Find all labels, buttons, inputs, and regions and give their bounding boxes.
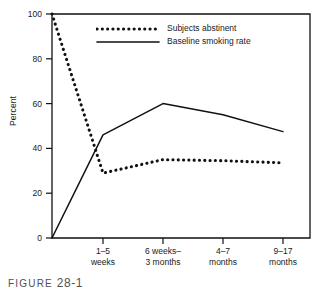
legend-swatch-solid-icon	[96, 37, 160, 47]
figure-caption-number: 28-1	[57, 276, 83, 287]
legend-item-subjects-abstinent: Subjects abstinent	[96, 22, 251, 35]
x-tick-label-4: 9–17 months	[248, 246, 318, 267]
y-tick-label-20: 20	[16, 188, 42, 198]
y-axis-title: Percent	[8, 81, 18, 141]
figure-caption: FIGURE 28-1	[8, 276, 83, 287]
y-tick-label-60: 60	[16, 99, 42, 109]
figure-caption-prefix: FIGURE	[8, 278, 53, 287]
figure-container: 0 20 40 60 80 100 Percent 1–5 weeks 6 we…	[0, 0, 323, 287]
x-axis-ticks	[103, 238, 283, 244]
chart-legend: Subjects abstinent Baseline smoking rate	[96, 22, 251, 48]
y-tick-label-100: 100	[16, 9, 42, 19]
legend-swatch-dotted-icon	[96, 24, 160, 34]
y-tick-label-80: 80	[16, 54, 42, 64]
legend-item-baseline-smoking-rate: Baseline smoking rate	[96, 35, 251, 48]
legend-label-subjects-abstinent: Subjects abstinent	[167, 22, 236, 35]
x-tick-label-4-line2: months	[248, 257, 318, 268]
y-tick-label-40: 40	[16, 143, 42, 153]
chart-plot-area: 0 20 40 60 80 100 Percent 1–5 weeks 6 we…	[0, 0, 323, 260]
legend-label-baseline-smoking-rate: Baseline smoking rate	[167, 35, 251, 48]
series-line-baseline-smoking-rate	[52, 104, 283, 238]
y-tick-label-0: 0	[16, 233, 42, 243]
x-tick-label-4-line1: 9–17	[248, 246, 318, 257]
y-axis-ticks	[46, 14, 52, 238]
